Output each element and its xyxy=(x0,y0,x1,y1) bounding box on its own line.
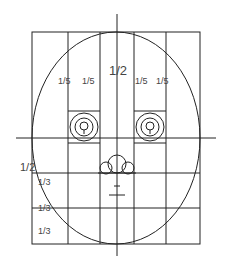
right-eye xyxy=(136,113,164,141)
label-fifth-4: 1/5 xyxy=(156,76,169,86)
left-eye xyxy=(70,113,98,141)
label-fifth-3: 1/5 xyxy=(135,76,148,86)
label-lower-half: 1/2 xyxy=(20,161,35,173)
label-third-3: 1/3 xyxy=(38,226,51,236)
label-third-1: 1/3 xyxy=(38,177,51,187)
label-third-2: 1/3 xyxy=(38,203,51,213)
label-top-half: 1/2 xyxy=(109,63,127,78)
label-fifth-1: 1/5 xyxy=(58,76,71,86)
face-proportion-diagram: 1/2 1/5 1/5 1/5 1/5 1/2 1/3 1/3 1/3 xyxy=(0,0,226,270)
label-fifth-2: 1/5 xyxy=(82,76,95,86)
